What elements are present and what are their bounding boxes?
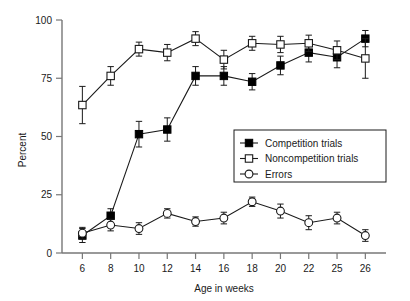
x-axis-ticks: 68101214161820222526 (80, 253, 372, 274)
x-tick-label: 22 (303, 263, 315, 274)
data-point-marker (107, 72, 114, 79)
x-tick-label: 18 (247, 263, 259, 274)
data-point-marker (135, 130, 142, 137)
data-point-marker (192, 72, 199, 79)
x-tick-label: 25 (331, 263, 343, 274)
data-point-marker (164, 49, 171, 56)
y-axis-title: Percent (17, 133, 28, 168)
chart-legend: Competition trialsNoncompetition trialsE… (234, 130, 386, 182)
legend-marker-open-circle (245, 170, 253, 178)
chart-container: 0255075100 68101214161820222526 Percent … (0, 0, 410, 301)
y-tick-label: 25 (41, 189, 53, 200)
y-tick-label: 100 (35, 15, 52, 26)
y-tick-label: 75 (41, 73, 53, 84)
data-point-marker (248, 40, 255, 47)
y-axis-ticks: 0255075100 (35, 15, 62, 259)
data-point-marker (163, 209, 171, 217)
y-tick-label: 50 (41, 131, 53, 142)
x-tick-label: 26 (360, 263, 372, 274)
y-tick-label: 0 (46, 248, 52, 259)
legend-marker-open-square (245, 155, 252, 162)
x-tick-label: 8 (108, 263, 114, 274)
legend-item-label: Noncompetition trials (265, 153, 358, 164)
data-point-marker (192, 218, 200, 226)
x-tick-label: 6 (80, 263, 86, 274)
legend-marker-filled-square (245, 139, 252, 146)
data-point-marker (78, 229, 86, 237)
x-tick-label: 16 (218, 263, 230, 274)
data-point-marker (305, 219, 313, 227)
x-tick-label: 20 (275, 263, 287, 274)
percent-vs-age-line-chart: 0255075100 68101214161820222526 Percent … (0, 0, 410, 301)
data-point-marker (277, 62, 284, 69)
data-point-marker (192, 35, 199, 42)
data-point-marker (79, 101, 86, 108)
data-point-marker (220, 214, 228, 222)
data-point-marker (277, 207, 285, 215)
data-point-marker (248, 198, 256, 206)
data-point-marker (135, 225, 143, 233)
data-point-marker (220, 56, 227, 63)
series-errors (78, 197, 369, 241)
x-tick-label: 14 (190, 263, 202, 274)
data-point-marker (248, 78, 255, 85)
data-point-marker (362, 55, 369, 62)
data-point-marker (361, 232, 369, 240)
data-point-marker (107, 221, 115, 229)
data-point-marker (135, 45, 142, 52)
data-point-marker (220, 72, 227, 79)
legend-item-label: Errors (265, 169, 292, 180)
data-point-marker (305, 40, 312, 47)
data-point-marker (333, 47, 340, 54)
data-point-marker (333, 214, 341, 222)
legend-item-label: Competition trials (265, 138, 342, 149)
data-point-marker (107, 212, 114, 219)
data-point-marker (277, 41, 284, 48)
data-point-marker (164, 126, 171, 133)
x-tick-label: 12 (162, 263, 174, 274)
x-axis-title: Age in weeks (194, 283, 253, 294)
x-tick-label: 10 (133, 263, 145, 274)
